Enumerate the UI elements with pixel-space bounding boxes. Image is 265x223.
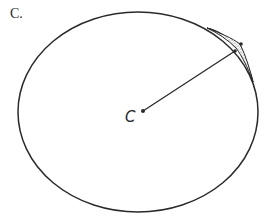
panel-label: C.: [10, 6, 23, 22]
large-ellipse: [18, 12, 258, 212]
center-label: C: [125, 108, 135, 126]
radius-line: [143, 51, 235, 111]
diagram-canvas: C. C: [0, 0, 265, 223]
outer-tip-point: [239, 42, 243, 46]
center-point: [141, 109, 145, 113]
radius-end-point: [233, 49, 237, 53]
